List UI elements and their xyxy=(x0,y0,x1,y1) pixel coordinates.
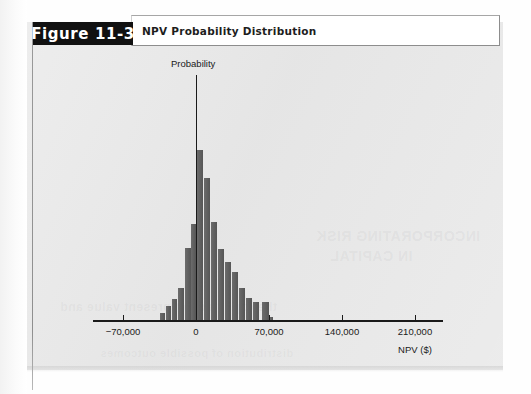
histogram-bar xyxy=(232,272,238,320)
histogram-bar xyxy=(239,288,245,320)
x-axis-tick xyxy=(342,315,343,320)
histogram-bar xyxy=(197,150,203,320)
x-axis-tick-label: 140,000 xyxy=(325,326,359,337)
x-axis-tick-label: 70,000 xyxy=(254,326,283,337)
x-axis-tick-label: −70,000 xyxy=(106,326,141,337)
x-axis-tick-label: 0 xyxy=(193,326,198,337)
figure-caption-box: NPV Probability Distribution xyxy=(131,15,500,46)
histogram-bar xyxy=(225,262,231,320)
histogram-bar xyxy=(246,298,252,320)
histogram-bar xyxy=(253,302,259,320)
histogram-bar xyxy=(172,299,177,320)
x-axis-tick-label: 210,000 xyxy=(398,326,432,337)
histogram-bar xyxy=(270,317,273,320)
page-canvas: INCORPORATING RISK IN CAPITAL the expect… xyxy=(0,0,531,394)
histogram-bar xyxy=(191,224,196,320)
histogram-bar xyxy=(204,178,210,320)
y-axis-title: Probability xyxy=(171,58,215,69)
x-axis-line xyxy=(93,320,443,322)
histogram-bar xyxy=(166,306,171,320)
figure-caption-label: NPV Probability Distribution xyxy=(132,25,316,37)
histogram-bar xyxy=(160,313,165,320)
histogram-bar xyxy=(218,249,224,320)
histogram-bar xyxy=(262,302,269,320)
x-axis-tick xyxy=(415,315,416,320)
histogram-bar xyxy=(178,288,184,320)
figure-number-tag: Figure 11-3 xyxy=(33,22,133,45)
x-axis-tick xyxy=(269,315,270,320)
x-axis-tick xyxy=(123,315,124,320)
histogram-bar xyxy=(211,222,217,320)
histogram-plot: Probability −70,000070,000140,000210,000… xyxy=(0,0,531,394)
x-axis-title: NPV ($) xyxy=(398,344,432,355)
figure-number-label: Figure 11-3 xyxy=(31,25,135,43)
x-axis-tick xyxy=(196,315,197,320)
